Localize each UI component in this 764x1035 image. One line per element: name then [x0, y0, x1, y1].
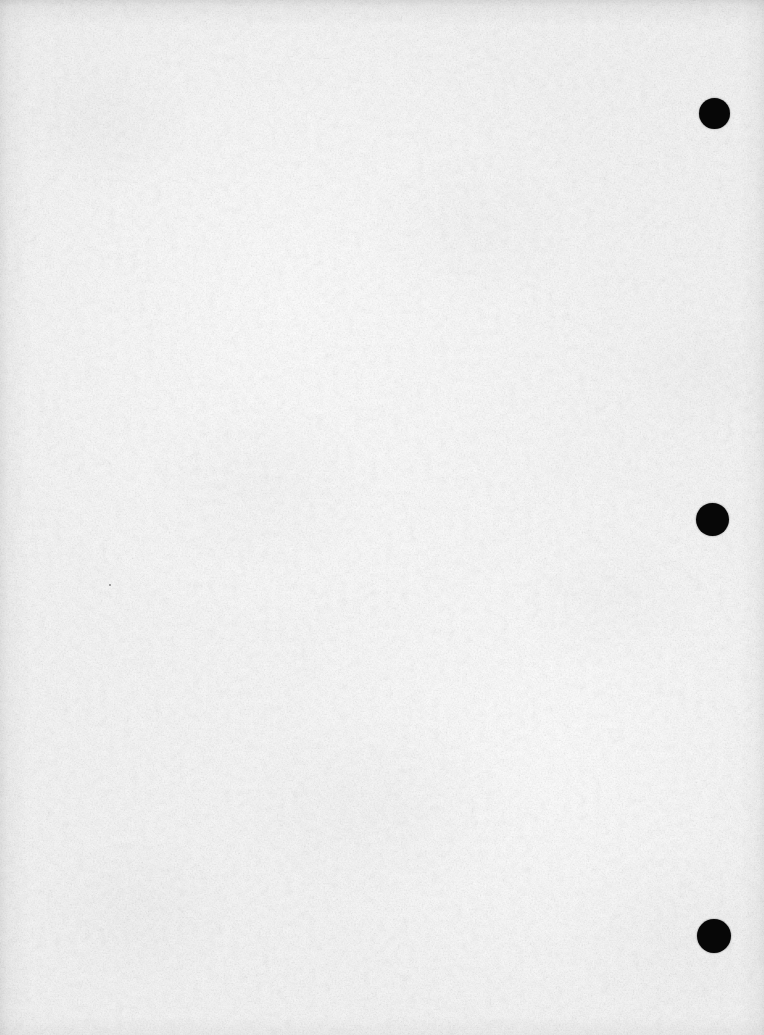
- punch-mark-middle: [696, 503, 729, 536]
- scan-speck: [109, 584, 111, 586]
- punch-mark-bottom: [697, 919, 731, 953]
- punch-mark-top: [699, 98, 730, 129]
- scanned-page: [0, 0, 764, 1035]
- paper-background: [0, 0, 764, 1035]
